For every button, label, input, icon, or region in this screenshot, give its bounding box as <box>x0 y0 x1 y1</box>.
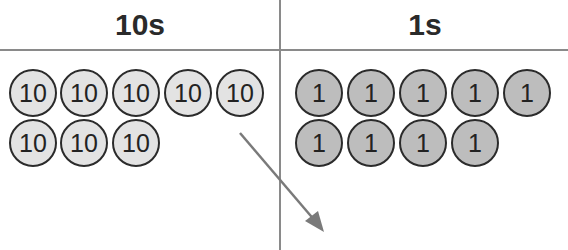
regroup-arrow-icon <box>0 0 568 250</box>
